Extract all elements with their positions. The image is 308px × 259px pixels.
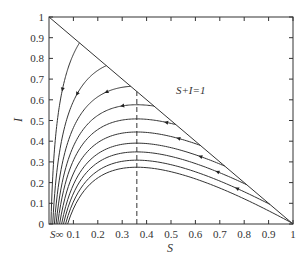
axis-tick-labels: 0.10.20.30.40.50.60.70.80.9100.10.20.30.… xyxy=(30,11,296,240)
x-tick-label: 0.1 xyxy=(67,228,81,240)
x-tick-label: 0.9 xyxy=(262,228,276,240)
y-axis-title: I xyxy=(11,117,25,123)
y-tick-label: 0.7 xyxy=(30,73,44,85)
trajectory-curve xyxy=(53,66,107,224)
trajectory-curve xyxy=(66,160,270,224)
y-tick-label: 0.3 xyxy=(30,156,44,168)
boundary-line-label: S+I=1 xyxy=(176,84,206,96)
direction-arrow-icon xyxy=(61,87,65,91)
direction-arrow-icon xyxy=(198,155,202,159)
y-tick-label: 0.5 xyxy=(30,115,44,127)
x-tick-label: 0.8 xyxy=(237,228,251,240)
trajectory-curve xyxy=(62,143,225,224)
x-tick-label: 0.4 xyxy=(140,228,154,240)
y-tick-label: 1 xyxy=(39,11,45,23)
x-tick-label: 1 xyxy=(290,228,296,240)
trajectory-curve xyxy=(60,132,201,224)
s-infinity-label: S∞ xyxy=(50,228,64,240)
y-tick-label: 0.2 xyxy=(30,177,44,189)
y-tick-label: 0 xyxy=(39,218,45,230)
y-tick-label: 0.1 xyxy=(30,197,44,209)
x-tick-label: 0.2 xyxy=(91,228,105,240)
y-tick-label: 0.9 xyxy=(30,32,44,44)
y-tick-label: 0.4 xyxy=(30,135,44,147)
direction-arrow-icon xyxy=(120,104,124,108)
trajectory-curve xyxy=(56,105,154,224)
y-tick-label: 0.6 xyxy=(30,94,44,106)
x-tick-label: 0.6 xyxy=(189,228,203,240)
x-tick-label: 0.5 xyxy=(164,228,178,240)
boundary-line-s-plus-i-equals-1 xyxy=(49,17,293,224)
trajectory-curve xyxy=(54,86,130,224)
x-tick-label: 0.7 xyxy=(213,228,227,240)
y-tick-label: 0.8 xyxy=(30,52,44,64)
direction-arrow-icon xyxy=(164,121,168,125)
trajectory-curves xyxy=(51,43,292,224)
x-axis-title: S xyxy=(167,241,173,255)
sir-phase-plot: 0.10.20.30.40.50.60.70.80.9100.10.20.30.… xyxy=(0,0,308,259)
trajectory-curve xyxy=(68,167,292,224)
x-tick-label: 0.3 xyxy=(115,228,129,240)
